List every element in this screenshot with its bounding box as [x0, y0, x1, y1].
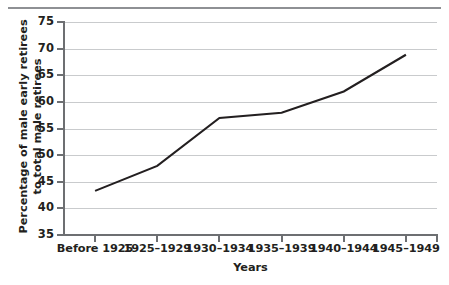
y-axis-title: Percentage of male early retirees to tot… [17, 16, 46, 236]
y-axis-title-line2: to total male retirees [31, 58, 44, 194]
chart-figure: 757065605550454035 Before 19251925–19291… [0, 0, 449, 285]
data-series-line [0, 0, 449, 285]
x-axis-title: Years [64, 261, 437, 274]
y-axis-title-line1: Percentage of male early retirees [17, 19, 30, 233]
